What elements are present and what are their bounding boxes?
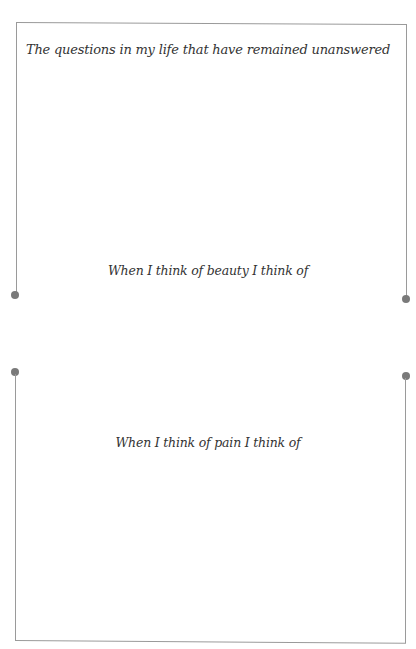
lower-right-connector-dot [402,372,410,380]
prompt-pain: When I think of pain I think of [0,435,416,450]
upper-right-connector-dot [402,295,410,303]
upper-frame-top-border [16,22,407,25]
upper-left-connector-dot [11,291,19,299]
upper-frame-left-border [16,22,17,294]
upper-frame-right-border [406,24,407,298]
lower-frame-right-border [405,378,406,643]
lower-frame-bottom-border [15,640,406,644]
lower-frame-left-border [15,374,16,641]
prompt-beauty: When I think of beauty I think of [0,263,416,278]
prompt-unanswered-questions: The questions in my life that have remai… [0,42,416,57]
